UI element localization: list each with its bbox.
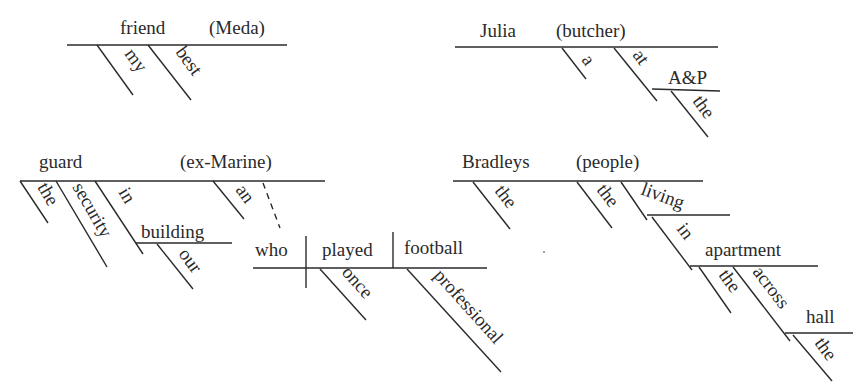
subject-word: friend bbox=[120, 17, 166, 38]
participle-word: living bbox=[639, 178, 688, 213]
appositive-word: (butcher) bbox=[556, 20, 626, 42]
modifier-word: an bbox=[232, 180, 260, 207]
diagram-julia: Julia (butcher) a at A&P the bbox=[455, 20, 720, 137]
object-word: building bbox=[141, 221, 205, 242]
diagram-meda: friend (Meda) my best bbox=[67, 17, 287, 100]
preposition-word: at bbox=[629, 45, 654, 69]
subject-word: guard bbox=[39, 151, 83, 172]
modifier-word: a bbox=[578, 50, 600, 70]
preposition-word: across bbox=[749, 262, 794, 313]
modifier-word: security bbox=[69, 179, 118, 242]
subject-word: Bradleys bbox=[462, 151, 530, 172]
modifier-word: the bbox=[491, 181, 522, 212]
relative-clause-connector bbox=[263, 183, 280, 228]
object-word: A&P bbox=[668, 67, 707, 88]
modifier-word: my bbox=[121, 44, 153, 76]
relative-clause: who played football once professional bbox=[253, 232, 508, 372]
appositive-word: (ex-Marine) bbox=[180, 151, 272, 173]
clause-subject: who bbox=[255, 239, 288, 260]
sentence-diagrams: friend (Meda) my best Julia (butcher) a … bbox=[0, 0, 865, 390]
modifier-word: the bbox=[593, 180, 624, 211]
object-word: hall bbox=[806, 306, 835, 327]
clause-verb: played bbox=[322, 239, 373, 260]
preposition-word: in bbox=[673, 219, 699, 244]
modifier-word: the bbox=[715, 265, 746, 296]
clause-object: football bbox=[404, 237, 463, 258]
modifier-word: best bbox=[172, 42, 207, 80]
object-word: apartment bbox=[705, 239, 782, 260]
modifier-word: the bbox=[34, 179, 64, 210]
participle-word-start: living bbox=[639, 178, 688, 213]
print-speck bbox=[543, 251, 545, 253]
modifier-word: the bbox=[689, 91, 720, 122]
modifier-word: the bbox=[811, 333, 842, 364]
diagram-bradleys: Bradleys (people) the the living in apar… bbox=[453, 151, 853, 381]
appositive-word: (people) bbox=[576, 151, 639, 173]
appositive-word: (Meda) bbox=[209, 17, 265, 39]
object-line bbox=[652, 89, 720, 91]
subject-word: Julia bbox=[480, 20, 516, 41]
preposition-word: in bbox=[115, 184, 141, 208]
